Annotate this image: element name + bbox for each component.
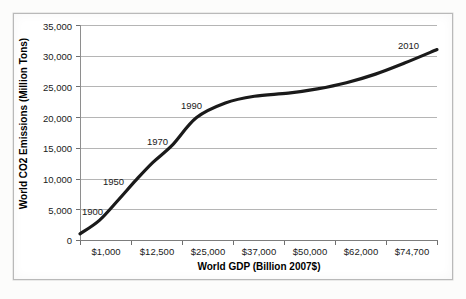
point-label-1950: 1950 [103, 176, 124, 187]
series-line-co2-emissions [0, 0, 466, 299]
series-path-co2 [80, 50, 437, 234]
point-label-1970: 1970 [147, 136, 168, 147]
line-chart: 35,000 30,000 25,000 20,000 15,000 10,00… [0, 0, 466, 299]
point-label-1900: 1900 [82, 206, 103, 217]
point-label-1990: 1990 [181, 100, 202, 111]
point-label-2010: 2010 [398, 40, 419, 51]
